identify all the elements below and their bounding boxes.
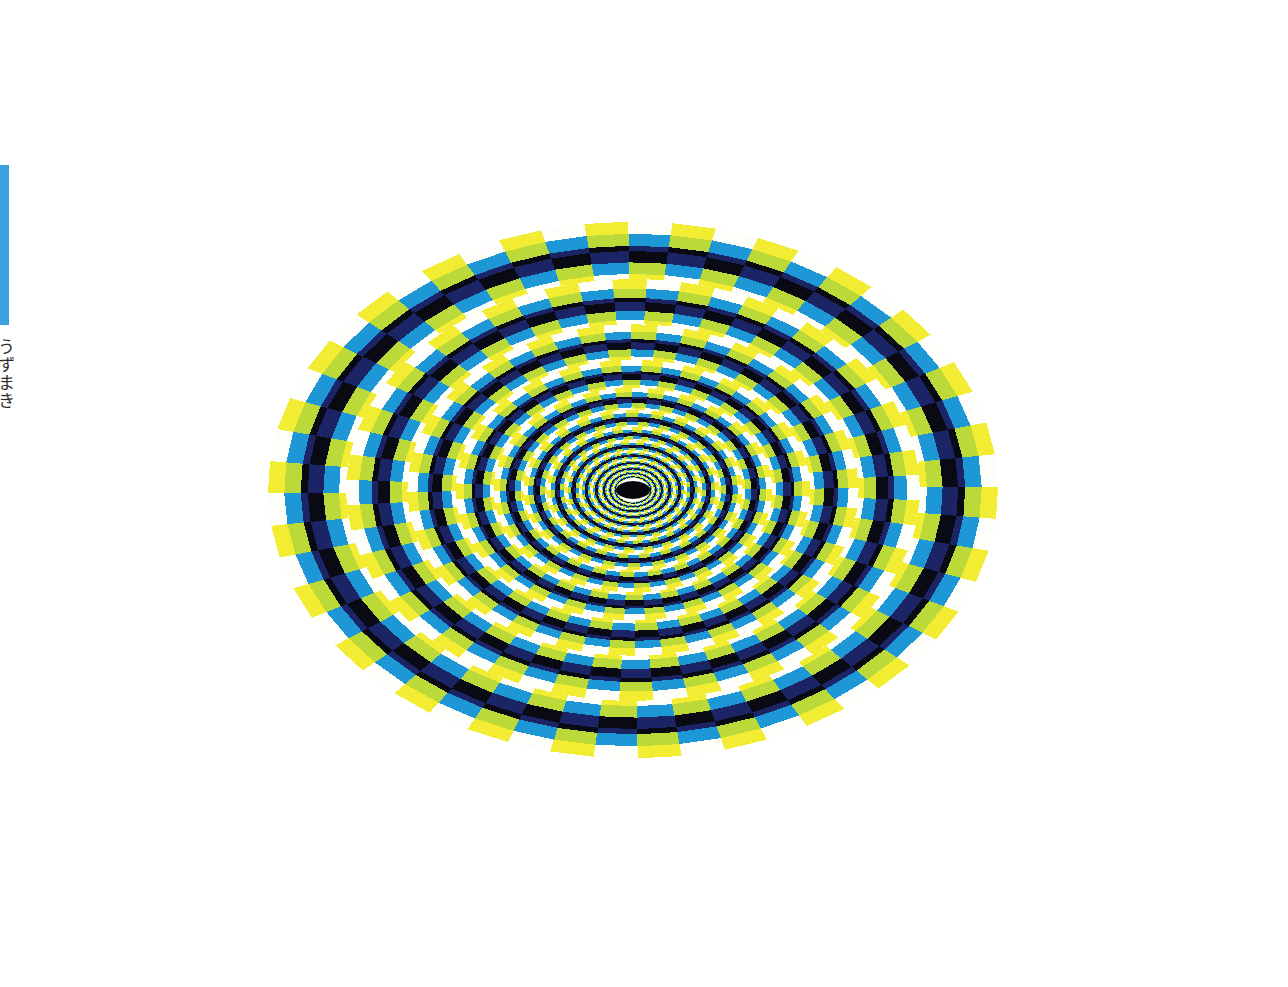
illusion-svg	[58, 53, 1232, 920]
left-edge-blue-bar	[0, 165, 9, 325]
radial-band-layer	[268, 222, 998, 759]
center-dot	[616, 481, 650, 499]
left-edge-caption: うずまき	[0, 338, 14, 518]
illusion-plate	[58, 53, 1232, 920]
scanned-page: うずまき	[0, 0, 1288, 987]
